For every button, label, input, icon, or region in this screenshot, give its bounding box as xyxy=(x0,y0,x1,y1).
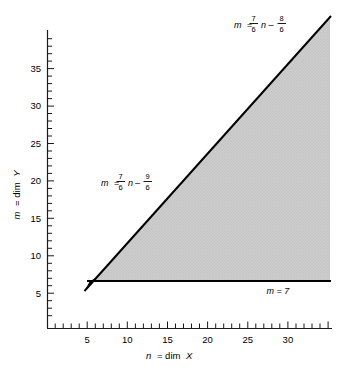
y-axis-title-var: m xyxy=(11,212,22,220)
annot-mid-minus: – xyxy=(135,178,140,188)
y-tick-label-20: 20 xyxy=(30,175,41,186)
x-tick-label-30: 30 xyxy=(283,334,294,345)
annot-mid-frac2-den: 6 xyxy=(145,183,149,192)
x-tick-label-15: 15 xyxy=(162,334,173,345)
annot-top-frac1-num: 7 xyxy=(251,14,255,23)
x-axis-title: n = dim X xyxy=(146,350,193,361)
svg-text:n = dim X: n = dim X xyxy=(146,350,193,361)
y-axis-title: m = dim Y xyxy=(11,170,22,220)
chart-svg: 5 10 15 20 25 30 35 xyxy=(0,0,343,372)
annot-mid-frac1-num: 7 xyxy=(118,172,122,181)
annot-top-var: n xyxy=(261,20,266,30)
annotation-lower-line: m = 7 xyxy=(267,286,291,296)
annot-mid-frac1-den: 6 xyxy=(118,183,122,192)
annot-top-lhs: m xyxy=(234,20,242,30)
annot-top-minus: – xyxy=(269,20,274,30)
annotation-upper-line-top: m = 7 6 n – 8 6 xyxy=(234,14,286,34)
annot-top-frac2-den: 6 xyxy=(279,25,283,34)
annot-mid-var: n xyxy=(128,178,133,188)
x-tick-label-25: 25 xyxy=(243,334,254,345)
svg-text:m =: m = xyxy=(234,20,252,30)
y-tick-label-25: 25 xyxy=(30,138,41,149)
x-tick-label-5: 5 xyxy=(85,334,90,345)
annot-mid-frac2-num: 9 xyxy=(145,172,149,181)
annot-top-frac1-den: 6 xyxy=(251,25,255,34)
y-tick-label-15: 15 xyxy=(30,213,41,224)
chart-container: 5 10 15 20 25 30 35 xyxy=(0,0,343,372)
y-axis-title-set: Y xyxy=(11,170,22,177)
y-tick-label-5: 5 xyxy=(36,288,41,299)
annot-top-frac2-num: 8 xyxy=(279,14,283,23)
y-tick-label-35: 35 xyxy=(30,63,41,74)
x-axis-title-eq: = dim xyxy=(157,350,181,361)
annotation-upper-line-middle: m = 7 6 n – 9 6 xyxy=(101,172,152,192)
x-axis-ticks xyxy=(55,322,328,329)
svg-text:m =: m = xyxy=(101,178,119,188)
y-axis-ticks xyxy=(48,39,55,316)
svg-text:m = dim Y: m = dim Y xyxy=(11,170,22,220)
x-tick-label-20: 20 xyxy=(202,334,213,345)
x-axis-title-var: n xyxy=(146,350,151,361)
x-tick-label-10: 10 xyxy=(122,334,133,345)
y-tick-label-30: 30 xyxy=(30,100,41,111)
y-axis-title-eq: = dim xyxy=(11,182,22,206)
y-tick-label-10: 10 xyxy=(30,250,41,261)
annot-mid-lhs: m xyxy=(101,178,109,188)
x-axis-title-set: X xyxy=(185,350,193,361)
